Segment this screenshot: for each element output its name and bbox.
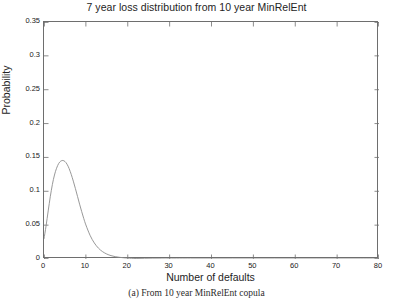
y-axis-title: Probability	[0, 30, 12, 150]
chart-title: 7 year loss distribution from 10 year Mi…	[0, 1, 393, 13]
y-tick-label: 0.15	[10, 151, 40, 160]
x-tick-label: 40	[197, 261, 225, 270]
distribution-curve	[44, 160, 379, 259]
x-tick-label: 10	[71, 261, 99, 270]
x-tick-label: 80	[364, 261, 392, 270]
x-tick-label: 60	[280, 261, 308, 270]
x-tick-label: 50	[238, 261, 266, 270]
y-tick-label: 0.35	[10, 16, 40, 25]
x-tick-label: 20	[113, 261, 141, 270]
y-axis-title-wrapper: Probability	[0, 30, 16, 150]
plot-canvas	[44, 22, 379, 259]
y-tick-label: 0.1	[10, 185, 40, 194]
plot-area	[43, 21, 378, 258]
x-tick-label: 0	[29, 261, 57, 270]
axis-ticks	[44, 22, 379, 259]
figure-caption: (a) From 10 year MinRelEnt copula	[0, 288, 393, 298]
figure-panel: 7 year loss distribution from 10 year Mi…	[0, 0, 393, 302]
y-tick-label: 0.05	[10, 219, 40, 228]
x-tick-label: 30	[155, 261, 183, 270]
x-axis-title: Number of defaults	[43, 271, 378, 283]
x-tick-label: 70	[322, 261, 350, 270]
